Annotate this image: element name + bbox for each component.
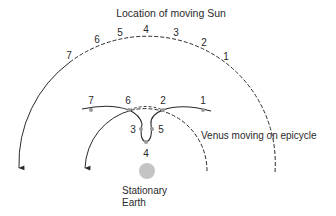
venus-epicycle-diagram: Location of moving Sun 1 2 3 4 5 6 7 1 2… [0, 0, 336, 216]
venus-position-1: 1 [200, 95, 206, 106]
earth-label-line2: Earth [122, 197, 146, 208]
earth-label-line1: Stationary [122, 185, 167, 196]
venus-position-5: 5 [158, 124, 164, 135]
sun-position-2: 2 [201, 37, 207, 48]
venus-position-6: 6 [125, 95, 131, 106]
sun-position-4: 4 [143, 24, 149, 35]
sun-position-1: 1 [223, 51, 229, 62]
venus-position-2: 2 [160, 95, 166, 106]
sun-orbit-arc-solid [19, 62, 70, 168]
venus-position-3: 3 [130, 124, 136, 135]
venus-dot-7 [89, 108, 93, 112]
venus-dot-4 [144, 140, 148, 144]
venus-dot-2 [161, 108, 165, 112]
earth-icon [139, 163, 155, 179]
venus-dot-3 [139, 127, 143, 131]
venus-dot-5 [150, 127, 154, 131]
venus-position-7: 7 [88, 95, 94, 106]
sun-position-7: 7 [66, 50, 72, 61]
diagram-title: Location of moving Sun [116, 7, 226, 19]
sun-position-5: 5 [117, 27, 123, 38]
deferent-arc-solid [85, 110, 132, 168]
venus-epicycle-path [82, 106, 211, 142]
venus-position-4: 4 [143, 148, 149, 159]
sun-position-6: 6 [94, 34, 100, 45]
sun-orbit-arc-dashed [70, 36, 275, 172]
sun-position-labels: 1 2 3 4 5 6 7 [66, 24, 229, 62]
venus-dot-1 [201, 108, 205, 112]
venus-dot-6 [127, 108, 131, 112]
sun-position-3: 3 [173, 27, 179, 38]
venus-caption: Venus moving on epicycle [201, 130, 317, 141]
